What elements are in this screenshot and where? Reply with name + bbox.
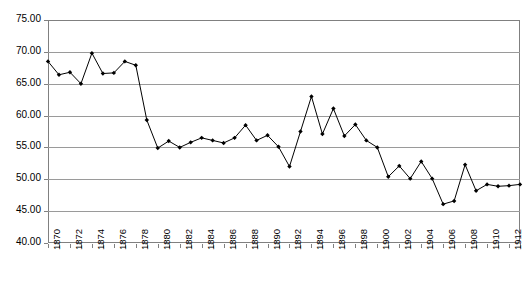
data-point-marker bbox=[298, 129, 302, 133]
data-point-marker bbox=[441, 202, 445, 206]
data-point-marker bbox=[518, 182, 522, 186]
data-point-marker bbox=[320, 132, 324, 136]
data-point-marker bbox=[287, 164, 291, 168]
data-point-marker bbox=[210, 138, 214, 142]
data-point-marker bbox=[134, 63, 138, 67]
data-point-marker bbox=[452, 199, 456, 203]
series-line bbox=[48, 53, 520, 204]
data-point-marker bbox=[145, 118, 149, 122]
data-point-marker bbox=[101, 71, 105, 75]
data-point-marker bbox=[199, 136, 203, 140]
data-point-marker bbox=[496, 184, 500, 188]
line-chart: 75.0070.0065.0060.0055.0050.0045.0040.00… bbox=[0, 0, 530, 293]
data-point-marker bbox=[309, 94, 313, 98]
data-point-marker bbox=[507, 183, 511, 187]
data-point-marker bbox=[331, 106, 335, 110]
data-point-marker bbox=[90, 51, 94, 55]
data-point-marker bbox=[188, 140, 192, 144]
data-point-marker bbox=[221, 141, 225, 145]
data-series-layer bbox=[0, 0, 530, 293]
data-point-marker bbox=[178, 145, 182, 149]
data-point-marker bbox=[463, 162, 467, 166]
data-point-marker bbox=[485, 182, 489, 186]
data-point-marker bbox=[474, 189, 478, 193]
